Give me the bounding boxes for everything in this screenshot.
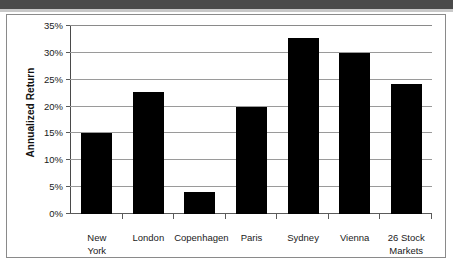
x-tick-mark bbox=[379, 214, 380, 219]
x-label-line: Vienna bbox=[329, 231, 381, 244]
y-tick-label: 35% bbox=[44, 20, 63, 31]
y-tick-label: 30% bbox=[44, 46, 63, 57]
bar-slot bbox=[123, 25, 175, 214]
bar-sydney[interactable] bbox=[288, 38, 319, 214]
chart-frame: Annualized Return 0%5%10%15%20%25%30%35%… bbox=[6, 14, 446, 258]
x-tick-mark bbox=[173, 214, 174, 219]
bar-slot bbox=[277, 25, 329, 214]
x-label-line: York bbox=[71, 244, 123, 257]
x-label-26-stock-markets: 26 StockMarkets bbox=[380, 231, 432, 257]
y-tick-mark bbox=[66, 186, 70, 187]
y-tick-mark bbox=[66, 132, 70, 133]
y-tick-mark bbox=[66, 213, 70, 214]
scan-edge-fade bbox=[0, 9, 453, 12]
x-label-paris: Paris bbox=[226, 231, 278, 244]
y-tick-label: 25% bbox=[44, 73, 63, 84]
y-tick-label: 5% bbox=[49, 181, 63, 192]
bar-new-york[interactable] bbox=[81, 133, 112, 214]
y-tick-mark bbox=[66, 159, 70, 160]
x-label-sydney: Sydney bbox=[277, 231, 329, 244]
y-tick-mark bbox=[66, 79, 70, 80]
x-label-line: Paris bbox=[226, 231, 278, 244]
bar-slot bbox=[71, 25, 123, 214]
x-tick-mark bbox=[431, 214, 432, 219]
bar-vienna[interactable] bbox=[339, 53, 370, 214]
bar-slot bbox=[174, 25, 226, 214]
y-tick-label: 0% bbox=[49, 208, 63, 219]
x-tick-mark bbox=[328, 214, 329, 219]
x-label-london: London bbox=[123, 231, 175, 244]
y-tick-label: 10% bbox=[44, 154, 63, 165]
x-label-line: 26 Stock bbox=[380, 231, 432, 244]
y-axis-title: Annualized Return bbox=[25, 43, 36, 183]
scan-edge-band bbox=[0, 0, 453, 9]
bar-26-stock-markets[interactable] bbox=[391, 84, 422, 214]
x-tick-mark bbox=[122, 214, 123, 219]
x-label-new-york: NewYork bbox=[71, 231, 123, 257]
x-label-line: Copenhagen bbox=[174, 231, 226, 244]
x-tick-mark bbox=[225, 214, 226, 219]
bar-london[interactable] bbox=[133, 92, 164, 214]
y-tick-label: 20% bbox=[44, 100, 63, 111]
x-label-line: London bbox=[123, 231, 175, 244]
bar-copenhagen[interactable] bbox=[184, 192, 215, 214]
plot-inner: 0%5%10%15%20%25%30%35% bbox=[70, 25, 432, 213]
x-label-line: Markets bbox=[380, 244, 432, 257]
x-axis-category-labels: NewYorkLondonCopenhagenParisSydneyVienna… bbox=[71, 231, 432, 271]
y-tick-label: 15% bbox=[44, 127, 63, 138]
bar-slot bbox=[329, 25, 381, 214]
x-label-vienna: Vienna bbox=[329, 231, 381, 244]
x-tick-mark bbox=[276, 214, 277, 219]
y-tick-mark bbox=[66, 25, 70, 26]
plot-area: 0%5%10%15%20%25%30%35% bbox=[70, 25, 432, 223]
x-label-line: New bbox=[71, 231, 123, 244]
x-label-copenhagen: Copenhagen bbox=[174, 231, 226, 244]
x-label-line: Sydney bbox=[277, 231, 329, 244]
bar-slot bbox=[226, 25, 278, 214]
bar-slot bbox=[380, 25, 432, 214]
y-tick-mark bbox=[66, 106, 70, 107]
y-tick-mark bbox=[66, 52, 70, 53]
bar-paris[interactable] bbox=[236, 107, 267, 214]
bars-group bbox=[71, 25, 432, 214]
